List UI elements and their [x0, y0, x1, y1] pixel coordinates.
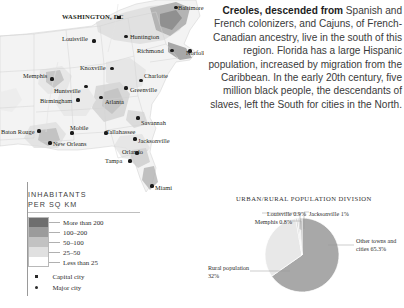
city-label-savannah: Savannah: [141, 120, 166, 126]
city-label-birmingham: Birmingham: [40, 98, 72, 104]
city-marker-memphis: [50, 77, 53, 80]
legend-title-line-1: INHABITANTS: [28, 190, 148, 200]
legend-class-label: 100–200: [63, 229, 87, 236]
legend-swatch: [28, 247, 49, 257]
city-marker-savannah: [136, 116, 139, 119]
city-marker-charlotte: [139, 79, 142, 82]
legend-leader-line: [49, 232, 60, 233]
city-marker-huntington: [124, 35, 127, 38]
city-marker-greenville: [124, 86, 127, 89]
city-label-baton-rouge: Baton Rouge: [1, 129, 35, 135]
legend-class-row: 25–50: [28, 247, 140, 257]
city-label-new-orleans: New Orleans: [53, 141, 87, 147]
legend-leader-line: [49, 242, 60, 243]
legend-class-label: Less than 25: [63, 259, 98, 266]
city-label-huntington: Huntington: [130, 34, 159, 40]
map-legend: INHABITANTS PER SQ KM More than 200100–2…: [28, 190, 148, 293]
city-label-miami: Miami: [155, 185, 172, 191]
city-marker-new-orleans: [48, 141, 51, 144]
pie-label-memphis: Memphis 0.8%: [208, 218, 292, 226]
city-label-knoxville: Knoxville: [80, 65, 106, 71]
legend-city-markers: Capital cityMajor city: [28, 271, 148, 293]
map-area: WASHINGTON, DCBaltimoreHuntingtonLouisvi…: [0, 0, 204, 196]
city-label-charlotte: Charlotte: [144, 73, 168, 79]
legend-class-row: More than 200: [28, 217, 140, 227]
city-marker-huntsville: [84, 85, 87, 88]
legend-marker-row: Major city: [35, 282, 148, 293]
capital-city-marker-icon: [35, 275, 38, 278]
city-label-tallahassee: Tallahassee: [106, 129, 135, 135]
legend-leader-line: [49, 252, 60, 253]
city-marker-jacksonville: [133, 137, 136, 140]
legend-class-label: 25–50: [63, 249, 80, 256]
city-marker-miami: [150, 184, 153, 187]
major-city-marker-icon: [35, 286, 38, 289]
legend-class-row: 50–100: [28, 237, 140, 247]
legend-swatch: [28, 237, 49, 247]
city-label-louisville: Louisville: [62, 36, 88, 42]
legend-swatch: [28, 257, 49, 267]
legend-leader-line: [49, 262, 60, 263]
city-label-orlando: Orlando: [122, 149, 143, 155]
legend-class-label: 50–100: [63, 239, 84, 246]
city-label-tampa: Tampa: [105, 158, 122, 164]
legend-title: INHABITANTS PER SQ KM: [28, 190, 148, 209]
pie-label-other-towns: Other towns and cities 65.3%: [356, 237, 404, 253]
city-label-washington-dc: WASHINGTON, DC: [62, 14, 124, 21]
city-marker-louisville: [92, 39, 95, 42]
legend-class-row: Less than 25: [28, 257, 140, 267]
legend-swatch: [28, 217, 49, 227]
city-marker-baton-rouge: [37, 129, 40, 132]
legend-marker-label: Major city: [52, 284, 81, 291]
city-label-mobile: Mobile: [70, 125, 88, 131]
city-label-jacksonville: Jacksonville: [138, 138, 170, 144]
city-marker-tampa: [128, 159, 131, 162]
urban-rural-pie-panel: URBAN/RURAL POPULATION DIVISION Memphis …: [204, 193, 404, 308]
pie-label-louisville: Louisville 0.9%: [214, 210, 306, 218]
pie-label-rural: Rural population 32%: [208, 264, 252, 280]
legend-class-label: More than 200: [63, 219, 104, 226]
pie-label-jacksonville: Jacksonville 1%: [309, 210, 349, 218]
legend-density-scale: More than 200100–20050–10025–50Less than…: [28, 217, 140, 267]
narrative-text-block: Creoles, descended from Spanish and Fren…: [202, 4, 402, 111]
map-infographic-page: WASHINGTON, DCBaltimoreHuntingtonLouisvi…: [0, 0, 404, 308]
city-label-baltimore: Baltimore: [178, 5, 204, 11]
narrative-lead: Creoles, descended from: [222, 5, 343, 16]
city-marker-richmond: [170, 49, 173, 52]
city-label-memphis: Memphis: [23, 73, 47, 79]
city-marker-mobile: [70, 131, 73, 134]
city-marker-birmingham: [76, 98, 79, 101]
narrative-body: Spanish and French colonizers, and Cajun…: [208, 5, 402, 110]
city-label-greenville: Greenville: [130, 87, 157, 93]
city-marker-knoxville: [110, 67, 113, 70]
legend-marker-row: Capital city: [35, 271, 148, 282]
legend-swatch: [28, 227, 49, 237]
pie-slices: [265, 218, 339, 292]
legend-rule: [28, 212, 140, 213]
city-label-richmond: Richmond: [137, 48, 164, 54]
legend-leader-line: [49, 222, 60, 223]
city-label-huntsville: Huntsville: [54, 88, 81, 94]
city-label-atlanta: Atlanta: [105, 99, 124, 105]
legend-title-line-2: PER SQ KM: [28, 200, 148, 210]
legend-class-row: 100–200: [28, 227, 140, 237]
legend-marker-label: Capital city: [52, 273, 84, 280]
city-marker-atlanta: [99, 96, 102, 99]
